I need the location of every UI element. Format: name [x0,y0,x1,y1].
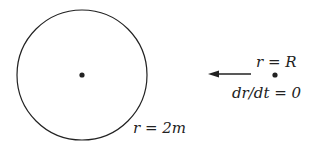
diagram-canvas: r = R dr/dt = 0 r = 2m [0,0,318,147]
particle-point [272,72,277,77]
particle-position-label: r = R [256,53,297,71]
center-point [79,72,84,77]
particle-velocity-label: dr/dt = 0 [232,84,302,102]
infall-arrow [208,71,251,78]
horizon-radius-label: r = 2m [133,119,186,137]
